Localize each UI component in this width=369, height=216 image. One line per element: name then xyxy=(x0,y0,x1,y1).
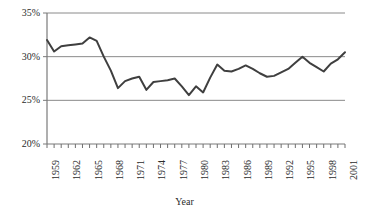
x-axis-ticks xyxy=(47,144,345,148)
data-line-share xyxy=(47,37,345,95)
x-axis-title: Year xyxy=(0,196,369,207)
plot-area xyxy=(0,0,369,216)
chart-container: 20%25%30%35% 195919621965196819711974197… xyxy=(0,0,369,216)
